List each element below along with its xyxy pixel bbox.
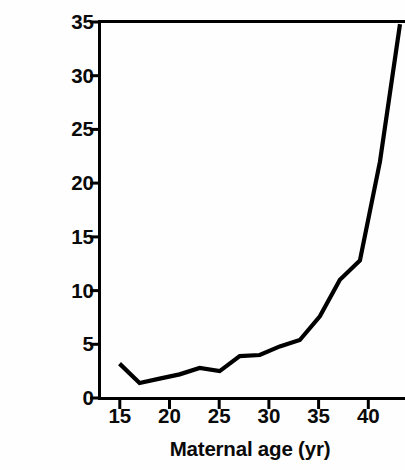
- chart-figure: Incidence of trisomy (% of clinically re…: [0, 0, 405, 470]
- data-series-line: [120, 24, 400, 383]
- axis-lines: [98, 21, 405, 400]
- plot-area: [0, 0, 405, 470]
